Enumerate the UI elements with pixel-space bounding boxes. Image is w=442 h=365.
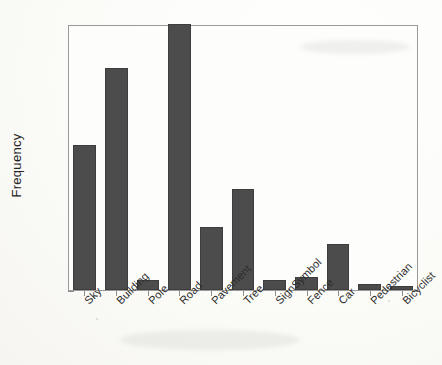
bar-slot	[69, 26, 101, 290]
bar-slot	[354, 26, 386, 290]
bar-slot	[196, 26, 228, 290]
bar	[200, 227, 223, 290]
bar-slot	[132, 26, 164, 290]
bar-slot	[385, 26, 417, 290]
figure-canvas: Frequency 00.050.10.150.20.250.3 SkyBuil…	[0, 0, 442, 365]
y-axis-tick-mark	[68, 291, 74, 292]
plot-area	[68, 25, 418, 291]
scan-speck	[96, 318, 98, 320]
bar-slot	[227, 26, 259, 290]
bar-slot	[101, 26, 133, 290]
bar-series	[69, 26, 417, 290]
bar	[73, 145, 96, 290]
scan-smudge	[120, 330, 300, 350]
bar-slot	[290, 26, 322, 290]
bar-slot	[164, 26, 196, 290]
y-axis-label: Frequency	[9, 133, 24, 197]
bar-slot	[259, 26, 291, 290]
scan-smudge	[300, 40, 410, 54]
bar	[105, 68, 128, 290]
bar-slot	[322, 26, 354, 290]
scan-speck	[388, 300, 390, 302]
bar	[168, 24, 191, 290]
